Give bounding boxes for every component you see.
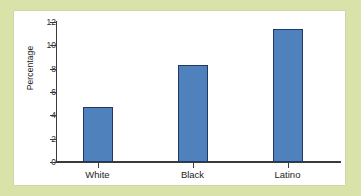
y-tick-mark [50,162,56,163]
chart-figure: Percentage 024681012 WhiteBlackLatino [0,0,361,196]
y-tick-mark [50,22,56,23]
x-tick-mark [193,163,194,168]
x-axis-label-latino: Latino [253,170,323,180]
y-tick-mark [50,92,56,93]
bar-white[interactable] [83,107,113,162]
y-axis-line [56,21,57,163]
bar-latino[interactable] [273,29,303,162]
x-axis-label-black: Black [158,170,228,180]
x-axis-label-white: White [63,170,133,180]
bar-black[interactable] [178,65,208,162]
y-tick-mark [50,139,56,140]
x-tick-mark [98,163,99,168]
y-tick-mark [50,45,56,46]
x-tick-mark [288,163,289,168]
y-tick-mark [50,115,56,116]
y-tick-mark [50,69,56,70]
plot-card: Percentage 024681012 WhiteBlackLatino [14,11,345,185]
